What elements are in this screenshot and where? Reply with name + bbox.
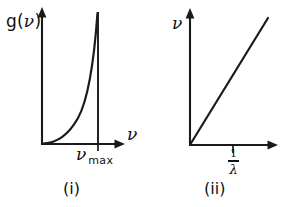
panel-i-caption: (i) bbox=[63, 181, 80, 197]
panel-i-x-axis-label: ν bbox=[127, 126, 137, 143]
panel-ii-x-axis-label-numerator: 1 bbox=[230, 148, 237, 159]
panel-ii-x-axis-label-denominator: λ bbox=[229, 163, 237, 176]
panel-i-density-of-states-curve bbox=[44, 13, 98, 144]
panel-i-y-axis-label: g(ν) bbox=[6, 13, 41, 30]
panel-i-y-axis-label-suffix: ) bbox=[34, 11, 41, 31]
panel-ii-y-axis-arrowhead bbox=[186, 8, 195, 19]
panel-ii-graphics bbox=[186, 8, 278, 153]
panel-ii-caption: (ii) bbox=[204, 181, 225, 197]
panel-ii-dispersion-line bbox=[191, 18, 269, 144]
figure-container: g(ν) ν νmax (i) ν 1 λ (ii) bbox=[0, 0, 285, 207]
panel-i-cutoff-label-symbol: ν bbox=[76, 144, 86, 164]
panel-i-y-axis-label-nu-symbol: ν bbox=[24, 11, 35, 31]
panel-ii-x-axis-label: 1 λ bbox=[228, 148, 239, 176]
panel-i-x-axis-arrowhead bbox=[115, 140, 126, 149]
panel-i-y-axis-label-prefix: g( bbox=[6, 11, 24, 31]
panel-ii-x-axis-arrowhead bbox=[268, 141, 279, 150]
panel-i-cutoff-label-subscript: max bbox=[88, 154, 113, 167]
figure-svg bbox=[0, 0, 285, 207]
panel-ii-y-axis-label: ν bbox=[172, 15, 182, 32]
panel-i-cutoff-label: νmax bbox=[76, 146, 113, 163]
panel-i-graphics bbox=[38, 7, 125, 151]
